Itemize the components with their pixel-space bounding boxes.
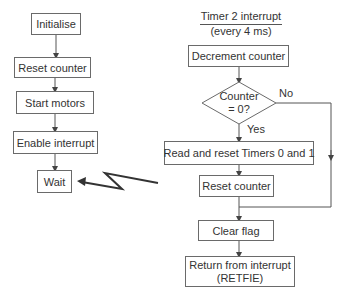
enable-interrupt-box: Enable interrupt (13, 131, 98, 154)
interrupt-lightning-arrow (82, 173, 158, 189)
initialise-label: Initialise (36, 18, 76, 30)
wait-box: Wait (37, 170, 72, 193)
decision-label: Counter = 0? (219, 90, 259, 116)
decrement-counter-box: Decrement counter (188, 45, 289, 67)
reset-counter-box: Reset counter (14, 57, 91, 78)
interrupt-title: Timer 2 interrupt (every 4 ms) (196, 10, 286, 38)
decision-line1: Counter (219, 90, 258, 102)
return-line1: Return from interrupt (189, 259, 290, 272)
reset-counter-label: Reset counter (18, 62, 86, 74)
wait-label: Wait (44, 176, 66, 188)
clear-flag-box: Clear flag (198, 220, 274, 241)
initialise-box: Initialise (31, 13, 81, 35)
yes-label: Yes (247, 123, 265, 135)
interrupt-title-line2: (every 4 ms) (210, 25, 271, 37)
reset-counter-interrupt-label: Reset counter (202, 180, 270, 192)
decrement-counter-label: Decrement counter (192, 50, 286, 62)
no-label: No (279, 87, 293, 99)
read-reset-timers-box: Read and reset Timers 0 and 1 (164, 141, 314, 165)
lightning-arrow-head-icon (77, 177, 86, 186)
return-box: Return from interrupt (RETFIE) (185, 256, 295, 287)
start-motors-box: Start motors (16, 91, 94, 114)
enable-interrupt-label: Enable interrupt (17, 137, 95, 149)
start-motors-label: Start motors (25, 97, 85, 109)
clear-flag-label: Clear flag (212, 225, 259, 237)
return-line2: (RETFIE) (217, 272, 263, 285)
decision-line2: = 0? (228, 103, 250, 115)
reset-counter-interrupt-box: Reset counter (199, 175, 274, 197)
interrupt-title-line1: Timer 2 interrupt (200, 10, 282, 25)
read-reset-timers-label: Read and reset Timers 0 and 1 (163, 147, 314, 159)
